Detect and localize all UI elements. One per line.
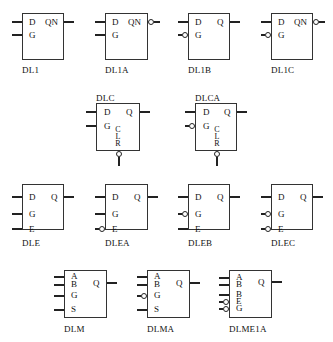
dlc-label-g: G [104, 122, 111, 131]
dl1-label-d: D [29, 18, 36, 27]
dl1b-name: DL1B [188, 66, 211, 75]
dl1b-pin-d [178, 21, 188, 23]
dlma-label-b: B [154, 280, 160, 289]
dlea-label-e: E [112, 225, 118, 234]
dlm-pin-a [54, 276, 64, 278]
dlm-label-q: Q [93, 279, 100, 288]
dl1a-pin-g [95, 34, 105, 36]
dlc-label-clr-r: R [114, 140, 122, 148]
dlea-pin-q [148, 196, 158, 198]
dlma-pin-s [137, 309, 147, 311]
dleb-name: DLEB [188, 239, 212, 248]
dlme1a-label-q: Q [258, 278, 265, 287]
dl1b-label-g: G [195, 31, 202, 40]
dlm-pin-s [54, 309, 64, 311]
dleb-g-inversion-bubble [182, 211, 188, 217]
dlma-pin-a [137, 276, 147, 278]
dlca-pin-clr [216, 157, 218, 166]
dl1b-g-inversion-bubble [182, 32, 188, 38]
dle-label-q: Q [51, 193, 58, 202]
dl1c-pin-qn [319, 21, 325, 23]
dl1-label-qn: QN [45, 18, 58, 27]
dl1b-label-d: D [195, 18, 202, 27]
dleb-pin-e [178, 228, 188, 230]
dlc-label-q: Q [126, 108, 133, 117]
dlea-pin-d [95, 196, 105, 198]
dlma-g-inversion-bubble [141, 293, 147, 299]
dl1-pin-d [12, 21, 22, 23]
dlec-pin-d [261, 196, 271, 198]
dlme1a-pin-q [272, 281, 282, 283]
dlca-label-d: D [203, 108, 210, 117]
dl1c-name: DL1C [271, 66, 294, 75]
dlm-pin-q [107, 282, 117, 284]
dl1-pin-g [12, 34, 22, 36]
dlc-label-d: D [104, 108, 111, 117]
dlma-label-g: G [154, 291, 161, 300]
dleb-pin-q [230, 196, 240, 198]
dl1a-label-g: G [112, 31, 119, 40]
dlec-label-g: G [278, 210, 285, 219]
dle-label-d: D [29, 193, 36, 202]
dlea-label-g: G [112, 210, 119, 219]
dle-pin-d [12, 196, 22, 198]
dlma-name: DLMA [147, 325, 174, 334]
dlec-pin-q [313, 196, 323, 198]
dlc-pin-d [86, 111, 96, 113]
dlec-g-inversion-bubble [265, 211, 271, 217]
dl1c-label-d: D [278, 18, 285, 27]
dlc-pin-clr [118, 157, 120, 166]
dleb-label-g: G [195, 210, 202, 219]
dlme1a-e-inversion-bubble [223, 299, 229, 305]
dlme1a-pin-b2 [219, 294, 229, 296]
dlme1a-label-b: B [236, 280, 242, 289]
dlca-label-clr-r: R [213, 140, 221, 148]
dl1-pin-qn [64, 21, 74, 23]
dlea-e-inversion-bubble [99, 226, 105, 232]
dlm-label-b: B [71, 280, 77, 289]
dlm-name: DLM [64, 325, 85, 334]
dle-label-g: G [29, 210, 36, 219]
dl1c-pin-d [261, 21, 271, 23]
dlca-label-q: Q [224, 108, 231, 117]
dlec-label-e: E [278, 225, 284, 234]
dlca-pin-d [185, 111, 195, 113]
dle-pin-q [64, 196, 74, 198]
dlec-label-q: Q [300, 193, 307, 202]
dlc-name: DLC [96, 94, 115, 103]
dlm-label-g: G [71, 291, 78, 300]
dleb-pin-d [178, 196, 188, 198]
dlma-label-s: S [154, 305, 159, 314]
dl1b-label-q: Q [217, 18, 224, 27]
dlma-label-q: Q [176, 279, 183, 288]
dl1b-pin-q [230, 21, 240, 23]
dlea-label-q: Q [134, 193, 141, 202]
dlme1a-name: DLME1A [229, 325, 267, 334]
dlea-name: DLEA [105, 239, 130, 248]
dl1a-name: DL1A [105, 66, 129, 75]
dlec-name: DLEC [271, 239, 295, 248]
dle-name: DLE [22, 239, 40, 248]
dl1a-pin-d [95, 21, 105, 23]
dl1-label-g: G [29, 31, 36, 40]
dlea-pin-g [95, 213, 105, 215]
dle-pin-g [12, 213, 22, 215]
dleb-label-q: Q [217, 193, 224, 202]
dlm-pin-g [54, 295, 64, 297]
dlme1a-label-g: G [236, 304, 243, 313]
dlme1a-g-inversion-bubble [223, 306, 229, 312]
dlec-label-d: D [278, 193, 285, 202]
dlca-name: DLCA [195, 94, 220, 103]
dl1a-label-d: D [112, 18, 119, 27]
dlm-label-s: S [71, 305, 76, 314]
dlc-pin-q [140, 111, 150, 113]
dlca-pin-q [237, 111, 247, 113]
dlme1a-pin-b [219, 284, 229, 286]
dle-label-e: E [29, 225, 35, 234]
dlca-label-g: G [203, 122, 210, 131]
dlma-pin-b [137, 284, 147, 286]
dl1a-label-qn: QN [128, 18, 141, 27]
dlc-pin-g [86, 125, 96, 127]
dlea-label-d: D [112, 193, 119, 202]
dleb-label-d: D [195, 193, 202, 202]
